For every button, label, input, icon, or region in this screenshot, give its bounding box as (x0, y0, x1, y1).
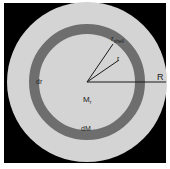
label-dM: dM (81, 125, 91, 132)
shell-mass-diagram: rshell r R dr Mr dM (0, 0, 170, 169)
label-dr: dr (36, 78, 43, 85)
diagram-stage: rshell r R dr Mr dM (0, 0, 170, 169)
label-R: R (157, 72, 164, 82)
